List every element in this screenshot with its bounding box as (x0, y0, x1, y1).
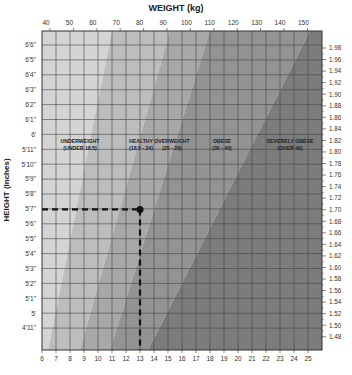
right-tick-label: 1.94 (329, 67, 342, 74)
left-tick-label: 6'6" (25, 41, 36, 48)
left-tick-label: 5'11" (22, 146, 37, 153)
top-tick-label: 110 (205, 19, 216, 26)
bottom-tick-label: 11 (109, 355, 116, 362)
right-tick-label: 1.70 (329, 206, 342, 213)
right-tick-label: 1.72 (329, 194, 342, 201)
bottom-tick-label: 8 (68, 355, 72, 362)
left-tick-label: 5'3" (25, 265, 36, 272)
right-tick-label: 1.64 (329, 241, 342, 248)
left-tick-label: 5'7" (25, 205, 36, 212)
band-label-name: HEALTHY (129, 138, 154, 144)
bottom-tick-label: 22 (262, 355, 270, 362)
right-tick-label: 1.74 (329, 183, 342, 190)
right-tick-label: 1.66 (329, 229, 342, 236)
bottom-tick-label: 9 (82, 355, 86, 362)
left-tick-label: 5'6" (25, 220, 36, 227)
top-axis-ticks: 405060708090100110120130140150 (42, 19, 309, 31)
left-tick-label: 6'3" (25, 86, 36, 93)
left-tick-label: 5' (31, 310, 36, 317)
bottom-tick-label: 16 (178, 355, 186, 362)
right-tick-label: 1.92 (329, 79, 342, 86)
left-tick-label: 5'9" (25, 175, 36, 182)
bottom-tick-label: 17 (192, 355, 200, 362)
bottom-tick-label: 19 (220, 355, 228, 362)
right-tick-label: 1.76 (329, 171, 342, 178)
top-tick-label: 130 (251, 19, 262, 26)
top-tick-label: 120 (228, 19, 239, 26)
band-label-name: OBESE (213, 138, 232, 144)
right-tick-label: 1.54 (329, 298, 342, 305)
left-tick-label: 6'5" (25, 56, 36, 63)
right-tick-label: 1.52 (329, 310, 342, 317)
band-label-range: (OVER 40) (277, 145, 303, 151)
left-tick-label: 5'8" (25, 190, 36, 197)
bottom-axis-ticks: 678910111213141516171819202122232425 (40, 350, 312, 362)
top-tick-label: 50 (66, 19, 74, 26)
right-axis-ticks: 1.981.961.941.921.901.881.861.841.821.80… (322, 44, 342, 340)
top-tick-label: 60 (89, 19, 97, 26)
band-label-name: OVERWEIGHT (154, 138, 190, 144)
right-tick-label: 1.68 (329, 218, 342, 225)
top-tick-label: 100 (181, 19, 192, 26)
bottom-tick-label: 20 (234, 355, 242, 362)
bottom-tick-label: 18 (206, 355, 214, 362)
left-tick-label: 6'1" (25, 116, 36, 123)
grid-lines (42, 31, 322, 350)
right-tick-label: 1.56 (329, 287, 342, 294)
bottom-tick-label: 23 (276, 355, 284, 362)
right-tick-label: 1.86 (329, 114, 342, 121)
top-tick-label: 150 (298, 19, 309, 26)
band-label-name: UNDERWEIGHT (60, 138, 100, 144)
right-tick-label: 1.84 (329, 125, 342, 132)
left-tick-label: 5'10" (22, 161, 37, 168)
right-tick-label: 1.80 (329, 148, 342, 155)
left-tick-label: 5'1" (25, 295, 36, 302)
left-tick-label: 4'11" (22, 324, 37, 331)
bottom-tick-label: 10 (94, 355, 102, 362)
bottom-tick-label: 25 (304, 355, 312, 362)
left-tick-label: 6'4" (25, 71, 36, 78)
right-tick-label: 1.96 (329, 56, 342, 63)
right-tick-label: 1.62 (329, 252, 342, 259)
bottom-tick-label: 12 (122, 355, 130, 362)
right-tick-label: 1.88 (329, 102, 342, 109)
right-tick-label: 1.58 (329, 275, 342, 282)
left-tick-label: 5'5" (25, 235, 36, 242)
left-tick-label: 5'4" (25, 250, 36, 257)
bottom-tick-label: 7 (54, 355, 58, 362)
band-label-name: SEVERELY OBESE (267, 138, 314, 144)
right-tick-label: 1.60 (329, 264, 342, 271)
right-tick-label: 1.48 (329, 333, 342, 340)
right-tick-label: 1.90 (329, 91, 342, 98)
bottom-tick-label: 24 (290, 355, 298, 362)
left-tick-label: 6'2" (25, 101, 36, 108)
band-label-range: (25 - 29) (162, 145, 182, 151)
left-axis-ticks: 6'6"6'5"6'4"6'3"6'2"6'1"6'5'11"5'10"5'9"… (22, 41, 37, 331)
highlight-point (137, 206, 144, 213)
left-tick-label: 6' (31, 131, 36, 138)
left-axis-title: HEIGHT (inches) (2, 158, 11, 221)
right-tick-label: 1.82 (329, 137, 342, 144)
band-label-range: (UNDER 18.5) (63, 145, 97, 151)
top-tick-label: 70 (113, 19, 121, 26)
bmi-chart: UNDERWEIGHT(UNDER 18.5)HEALTHY(18.5 - 24… (0, 0, 352, 375)
bottom-tick-label: 14 (150, 355, 158, 362)
top-tick-label: 80 (136, 19, 144, 26)
bottom-tick-label: 15 (164, 355, 172, 362)
top-tick-label: 140 (275, 19, 286, 26)
bottom-tick-label: 21 (248, 355, 256, 362)
bottom-tick-label: 13 (136, 355, 144, 362)
band-label-range: (18.5 - 24) (129, 145, 153, 151)
top-tick-label: 90 (159, 19, 167, 26)
left-tick-label: 5'2" (25, 280, 36, 287)
bottom-tick-label: 6 (40, 355, 44, 362)
top-tick-label: 40 (42, 19, 50, 26)
top-axis-title: WEIGHT (kg) (149, 3, 204, 13)
right-tick-label: 1.78 (329, 160, 342, 167)
band-label-range: (30 - 40) (212, 145, 232, 151)
right-tick-label: 1.98 (329, 44, 342, 51)
right-tick-label: 1.50 (329, 322, 342, 329)
